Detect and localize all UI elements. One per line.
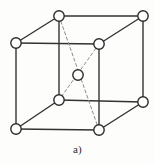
edge-top-front (16, 43, 99, 44)
edge-top-left (16, 16, 59, 43)
edge-bottom-left (16, 100, 59, 129)
edge-bottom-right (99, 102, 143, 130)
edge-top-right (99, 16, 143, 44)
atom-node-bottom-back-right (138, 97, 148, 107)
atom-node-body-center (73, 70, 83, 80)
atom-layer (11, 11, 148, 135)
lattice-diagram (0, 0, 155, 164)
atom-node-top-back-right (138, 11, 148, 21)
edge-bottom-front (16, 129, 99, 130)
atom-node-top-front-right (94, 39, 104, 49)
atom-node-top-front-left (11, 38, 21, 48)
atom-node-bottom-front-right (94, 125, 104, 135)
atom-node-bottom-front-left (11, 124, 21, 134)
edge-bottom-back (59, 100, 143, 102)
atom-node-top-back-left (54, 11, 64, 21)
bcc-lattice-figure: a) (0, 0, 155, 164)
atom-node-bottom-back-left (54, 95, 64, 105)
figure-caption: a) (0, 142, 155, 156)
